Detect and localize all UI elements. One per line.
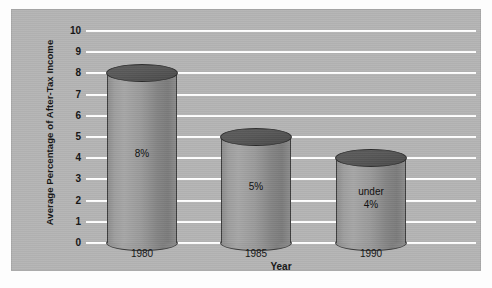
y-tick-label: 4 — [59, 153, 81, 163]
y-tick-label: 7 — [59, 90, 81, 100]
bar-value-label: 5% — [221, 180, 291, 193]
bar-value-line1: 5% — [221, 180, 291, 193]
x-tick-label: 1980 — [102, 248, 182, 259]
y-tick-label: 0 — [59, 238, 81, 248]
gridline — [86, 51, 476, 53]
bar-value-label: 8% — [107, 147, 177, 160]
y-tick-label: 5 — [59, 132, 81, 142]
bar-cylinder: under4% — [336, 158, 406, 243]
chart-screenshot: Average Percentage of After-Tax Income 1… — [0, 0, 492, 288]
plot-area: 8%5%under4% — [86, 31, 476, 243]
bar-cylinder: 8% — [107, 73, 177, 243]
y-axis-title: Average Percentage of After-Tax Income — [44, 23, 55, 243]
gridline — [86, 30, 476, 32]
y-tick-label: 3 — [59, 174, 81, 184]
bar-value-line1: under — [336, 185, 406, 198]
bar-cylinder: 5% — [221, 137, 291, 243]
y-tick-label: 1 — [59, 217, 81, 227]
y-axis-tick-labels: 109876543210 — [59, 31, 81, 243]
bar-top-ellipse — [220, 128, 292, 146]
x-tick-label: 1985 — [216, 248, 296, 259]
x-axis-title: Year — [86, 261, 476, 272]
bar-value-label: under4% — [336, 185, 406, 211]
bar-value-line2: 4% — [336, 198, 406, 211]
y-tick-label: 8 — [59, 68, 81, 78]
chart-panel: Average Percentage of After-Tax Income 1… — [11, 9, 481, 271]
y-tick-label: 6 — [59, 111, 81, 121]
y-tick-label: 10 — [59, 26, 81, 36]
y-tick-label: 2 — [59, 196, 81, 206]
bar-value-line1: 8% — [107, 147, 177, 160]
x-tick-label: 1990 — [331, 248, 411, 259]
y-tick-label: 9 — [59, 47, 81, 57]
